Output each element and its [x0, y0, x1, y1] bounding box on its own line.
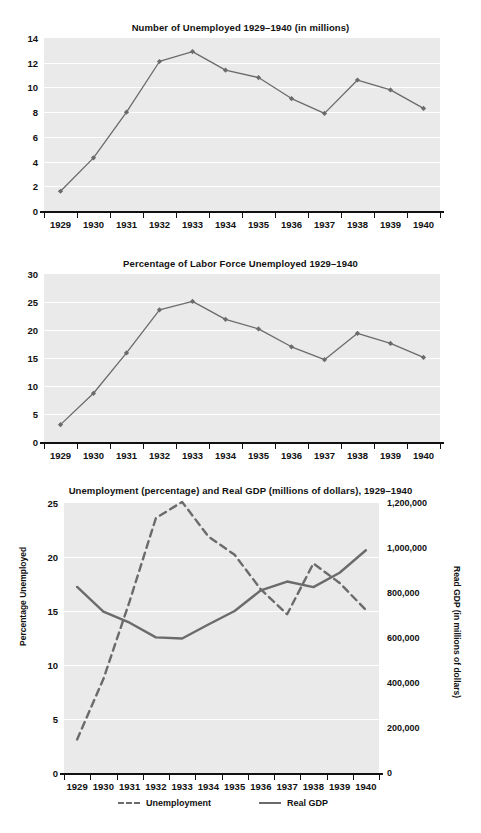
x-axis-tick-label: 1938: [347, 219, 368, 230]
legend-label-unemployment: Unemployment: [146, 798, 211, 808]
x-axis-tick-label: 1939: [329, 781, 350, 792]
x-axis-tick-mark: [374, 444, 375, 449]
y-axis-tick-label: 400,000: [387, 678, 420, 688]
legend-item-real-gdp: Real GDP: [259, 798, 328, 808]
x-axis-tick-label: 1935: [248, 219, 269, 230]
x-axis-tick-label: 1933: [182, 219, 203, 230]
y-axis-tick-label: 0: [0, 437, 38, 448]
y-axis-tick-label: 25: [0, 498, 58, 509]
y-axis-tick-label: 15: [0, 606, 58, 617]
chart3-legend: Unemployment Real GDP: [118, 798, 328, 808]
y-axis-tick-label: 25: [0, 297, 38, 308]
figure-page: Number of Unemployed 1929–1940 (in milli…: [0, 0, 481, 833]
x-axis-tick-mark: [379, 775, 380, 780]
x-axis-tick-mark: [275, 444, 276, 449]
chart3-title: Unemployment (percentage) and Real GDP (…: [0, 485, 481, 496]
y-axis-tick-label: 0: [0, 768, 58, 779]
x-axis-tick-mark: [407, 444, 408, 449]
solid-line-icon: [259, 802, 281, 804]
x-axis-tick-mark: [143, 444, 144, 449]
data-point-marker: [223, 68, 228, 73]
x-axis-tick-mark: [353, 775, 354, 780]
x-axis-tick-label: 1939: [380, 219, 401, 230]
y-axis-tick-label: 30: [0, 269, 38, 280]
x-axis-tick-mark: [143, 775, 144, 780]
y-axis-tick-label: 20: [0, 552, 58, 563]
x-axis-tick-mark: [275, 213, 276, 218]
x-axis-tick-mark: [209, 213, 210, 218]
y-axis-tick-label: 6: [0, 131, 38, 142]
series-line: [61, 301, 424, 424]
x-axis-tick-mark: [300, 775, 301, 780]
x-axis-tick-label: 1929: [50, 219, 71, 230]
x-axis-tick-label: 1935: [224, 781, 245, 792]
legend-item-unemployment: Unemployment: [118, 798, 211, 808]
chart2-series: [44, 274, 440, 442]
x-axis-tick-label: 1931: [116, 219, 137, 230]
x-axis-tick-label: 1932: [149, 219, 170, 230]
x-axis-tick-mark: [440, 444, 441, 449]
x-axis-tick-mark: [327, 775, 328, 780]
x-axis-tick-label: 1933: [182, 450, 203, 461]
chart1-series: [44, 38, 440, 211]
x-axis-tick-mark: [110, 444, 111, 449]
y-axis-tick-label: 5: [0, 409, 38, 420]
x-axis-tick-mark: [440, 213, 441, 218]
x-axis-tick-label: 1940: [413, 219, 434, 230]
x-axis-tick-label: 1936: [250, 781, 271, 792]
x-axis-tick-label: 1932: [149, 450, 170, 461]
chart3-plot-area: [64, 503, 379, 773]
x-axis-tick-mark: [90, 775, 91, 780]
data-point-marker: [388, 341, 393, 346]
x-axis-tick-label: 1931: [119, 781, 140, 792]
x-axis-tick-mark: [242, 213, 243, 218]
chart3-series-unemployment: [64, 503, 379, 773]
figure-percent-labor-force: Percentage of Labor Force Unemployed 192…: [0, 252, 481, 470]
y-axis-tick-label: 1,200,000: [387, 498, 427, 508]
x-axis-tick-mark: [77, 213, 78, 218]
data-point-marker: [388, 87, 393, 92]
x-axis-tick-mark: [176, 444, 177, 449]
series-line: [77, 502, 366, 740]
x-axis-tick-label: 1937: [314, 219, 335, 230]
figure-unemployed-millions: Number of Unemployed 1929–1940 (in milli…: [0, 0, 481, 250]
y-axis-tick-label: 0: [0, 206, 38, 217]
x-axis-tick-label: 1929: [50, 450, 71, 461]
x-axis-tick-label: 1937: [314, 450, 335, 461]
x-axis-tick-label: 1940: [413, 450, 434, 461]
x-axis-tick-label: 1938: [303, 781, 324, 792]
data-point-marker: [190, 49, 195, 54]
x-axis-tick-label: 1930: [93, 781, 114, 792]
x-axis-tick-label: 1932: [145, 781, 166, 792]
x-axis-tick-mark: [77, 444, 78, 449]
chart2-plot-area: [44, 274, 440, 442]
x-axis-tick-mark: [341, 213, 342, 218]
x-axis-tick-label: 1940: [355, 781, 376, 792]
figure-unemployment-and-gdp: Unemployment (percentage) and Real GDP (…: [0, 478, 481, 833]
x-axis-tick-mark: [374, 213, 375, 218]
x-axis-tick-label: 1937: [277, 781, 298, 792]
x-axis-tick-label: 1929: [67, 781, 88, 792]
x-axis-tick-mark: [209, 444, 210, 449]
y-axis-tick-label: 12: [0, 57, 38, 68]
y-axis-tick-label: 20: [0, 325, 38, 336]
x-axis-tick-mark: [341, 444, 342, 449]
data-point-marker: [421, 355, 426, 360]
x-axis-tick-label: 1934: [215, 450, 236, 461]
chart1-plot-area: [44, 38, 440, 211]
x-axis-tick-mark: [308, 444, 309, 449]
y-axis-tick-label: 200,000: [387, 723, 420, 733]
chart3-y-axis-left-label: Percentage Unemployed: [18, 547, 28, 646]
y-axis-tick-label: 15: [0, 353, 38, 364]
data-point-marker: [190, 299, 195, 304]
x-axis-tick-mark: [44, 444, 45, 449]
x-axis-tick-mark: [248, 775, 249, 780]
data-point-marker: [289, 344, 294, 349]
chart1-title: Number of Unemployed 1929–1940 (in milli…: [0, 22, 481, 33]
x-axis-tick-mark: [308, 213, 309, 218]
x-axis-tick-label: 1935: [248, 450, 269, 461]
y-axis-tick-label: 10: [0, 82, 38, 93]
data-point-marker: [421, 106, 426, 111]
x-axis-tick-label: 1936: [281, 219, 302, 230]
x-axis-tick-mark: [44, 213, 45, 218]
